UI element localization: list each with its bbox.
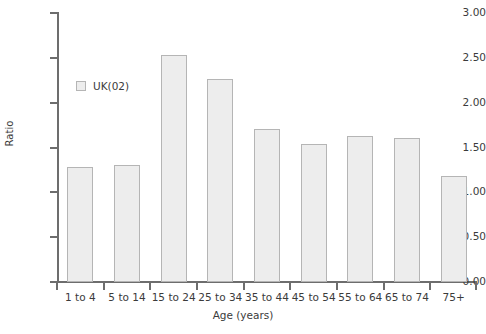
bar-55-to-64 — [347, 136, 373, 282]
x-tick-mark — [56, 283, 58, 290]
legend-swatch-icon — [76, 81, 86, 91]
bar-chart: Ratio 0.000.501.001.502.002.503.00 1 to … — [0, 0, 486, 334]
y-axis-title: Ratio — [4, 104, 15, 164]
bar-65-to-74 — [394, 138, 420, 282]
y-tick-mark — [50, 191, 59, 193]
y-tick-mark — [50, 57, 59, 59]
bar-35-to-44 — [254, 129, 280, 282]
x-tick-label: 15 to 24 — [152, 291, 196, 303]
y-tick-label: 3.00 — [442, 6, 486, 18]
x-tick-mark — [103, 283, 105, 290]
x-tick-mark — [429, 283, 431, 290]
x-tick-label: 65 to 74 — [385, 291, 429, 303]
bar-45-to-54 — [301, 144, 327, 282]
bar-1-to-4 — [67, 167, 93, 282]
legend-label-uk02: UK(02) — [93, 80, 129, 92]
x-tick-label: 35 to 44 — [245, 291, 289, 303]
y-tick-label: 2.00 — [442, 96, 486, 108]
x-tick-mark — [475, 283, 477, 290]
legend: UK(02) — [76, 80, 129, 92]
x-tick-mark — [383, 283, 385, 290]
x-tick-mark — [243, 283, 245, 290]
x-tick-mark — [149, 283, 151, 290]
x-tick-mark — [289, 283, 291, 290]
x-tick-label: 75+ — [443, 291, 465, 303]
x-tick-mark — [336, 283, 338, 290]
bar-75plus — [441, 176, 467, 282]
y-tick-mark — [50, 147, 59, 149]
x-tick-mark — [196, 283, 198, 290]
bar-5-to-14 — [114, 165, 140, 282]
x-tick-label: 25 to 34 — [198, 291, 242, 303]
y-tick-label: 2.50 — [442, 51, 486, 63]
y-tick-mark — [50, 236, 59, 238]
x-tick-label: 5 to 14 — [108, 291, 145, 303]
y-tick-mark — [50, 12, 59, 14]
x-tick-label: 45 to 54 — [292, 291, 336, 303]
x-tick-label: 55 to 64 — [338, 291, 382, 303]
x-tick-label: 1 to 4 — [65, 291, 96, 303]
bar-25-to-34 — [207, 79, 233, 282]
x-axis-title: Age (years) — [0, 309, 486, 321]
bar-15-to-24 — [161, 55, 187, 282]
y-tick-label: 1.50 — [442, 141, 486, 153]
y-tick-mark — [50, 102, 59, 104]
